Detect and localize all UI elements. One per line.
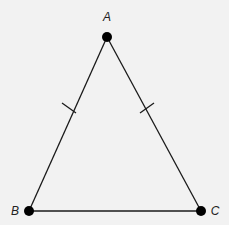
triangle-diagram: A B C [0, 0, 229, 225]
vertex-c-label: C [211, 204, 220, 218]
tick-mark-ab [62, 103, 76, 113]
side-ac [107, 37, 201, 211]
diagram-canvas: A B C [0, 0, 229, 225]
vertex-c-dot [196, 206, 206, 216]
vertex-a-dot [102, 32, 112, 42]
vertex-b-label: B [11, 204, 19, 218]
vertex-b-dot [24, 206, 34, 216]
vertex-a-label: A [102, 10, 111, 24]
side-ab [29, 37, 107, 211]
